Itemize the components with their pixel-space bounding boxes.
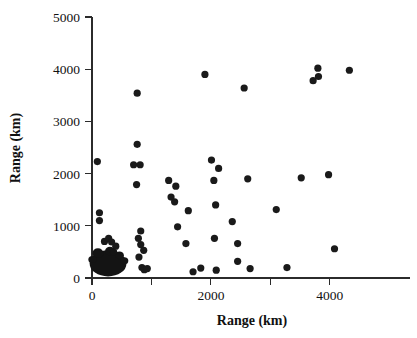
data-point bbox=[189, 268, 196, 275]
y-axis-ticks: 010002000300040005000 bbox=[53, 10, 92, 286]
data-point bbox=[185, 207, 192, 214]
data-point bbox=[133, 181, 140, 188]
data-point bbox=[247, 265, 254, 272]
y-tick-label: 4000 bbox=[53, 62, 80, 77]
data-point bbox=[212, 201, 219, 208]
y-tick-label: 3000 bbox=[53, 114, 80, 129]
data-point bbox=[244, 175, 251, 182]
x-tick-label: 2000 bbox=[197, 288, 224, 303]
data-point bbox=[315, 73, 322, 80]
data-point bbox=[210, 177, 217, 184]
data-point bbox=[208, 156, 215, 163]
data-point bbox=[172, 183, 179, 190]
data-point bbox=[197, 264, 204, 271]
cluster-blob-lobe bbox=[120, 257, 128, 264]
data-point bbox=[137, 161, 144, 168]
cluster-blob-lobe bbox=[110, 249, 117, 256]
data-point bbox=[273, 206, 280, 213]
y-tick-label: 5000 bbox=[53, 10, 80, 25]
y-tick-label: 2000 bbox=[53, 167, 80, 182]
data-point bbox=[174, 223, 181, 230]
x-axis-ticks: 020004000 bbox=[89, 278, 344, 303]
dense-cluster-blob bbox=[88, 247, 128, 277]
data-point bbox=[140, 247, 147, 254]
data-point bbox=[283, 264, 290, 271]
y-axis-title: Range (km) bbox=[8, 112, 24, 183]
data-point bbox=[137, 227, 144, 234]
y-tick-label: 0 bbox=[73, 271, 80, 286]
plot-canvas: 010002000300040005000 020004000 Range (k… bbox=[0, 0, 417, 338]
x-tick-label: 4000 bbox=[316, 288, 343, 303]
data-point bbox=[346, 67, 353, 74]
data-point bbox=[96, 209, 103, 216]
data-point bbox=[134, 141, 141, 148]
data-point bbox=[213, 267, 220, 274]
x-axis-title: Range (km) bbox=[217, 313, 288, 329]
y-tick-label: 1000 bbox=[53, 219, 80, 234]
data-point bbox=[234, 240, 241, 247]
data-point bbox=[201, 71, 208, 78]
data-point bbox=[134, 90, 141, 97]
data-point bbox=[211, 235, 218, 242]
data-point bbox=[229, 218, 236, 225]
scatter-chart: 010002000300040005000 020004000 Range (k… bbox=[0, 0, 417, 338]
data-point bbox=[96, 217, 103, 224]
data-point bbox=[182, 240, 189, 247]
data-point bbox=[234, 258, 241, 265]
data-point bbox=[241, 84, 248, 91]
data-points bbox=[94, 65, 353, 276]
data-point bbox=[325, 171, 332, 178]
data-point bbox=[135, 235, 142, 242]
data-point bbox=[298, 174, 305, 181]
x-tick-label: 0 bbox=[89, 288, 96, 303]
data-point bbox=[171, 198, 178, 205]
data-point bbox=[165, 177, 172, 184]
cluster-blob-lobe bbox=[88, 256, 96, 263]
data-point bbox=[94, 158, 101, 165]
data-point bbox=[215, 165, 222, 172]
data-point bbox=[135, 254, 142, 261]
data-point bbox=[314, 65, 321, 72]
data-point bbox=[144, 265, 151, 272]
data-point bbox=[130, 161, 137, 168]
data-point bbox=[331, 245, 338, 252]
